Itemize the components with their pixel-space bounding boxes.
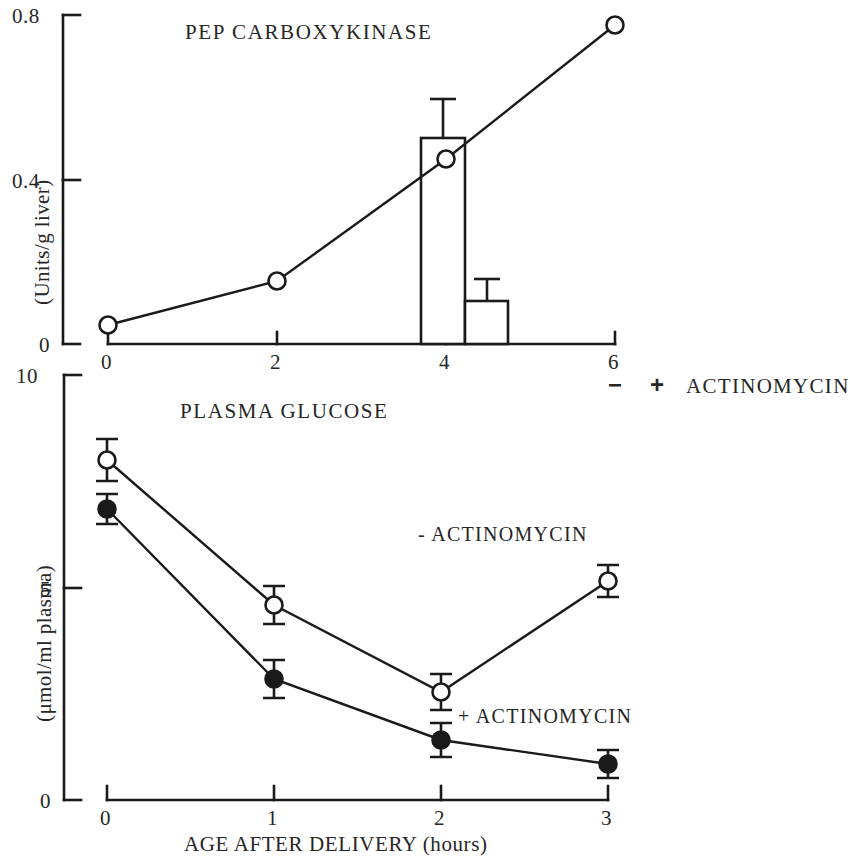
bar-minus-actinomycin	[421, 138, 465, 344]
bottom-ytick-label-0: 0	[40, 789, 51, 814]
top-xtick-label-4: 4	[439, 350, 450, 375]
top-marker-2	[269, 273, 286, 290]
bottom-filled-marker-3	[600, 756, 617, 773]
top-ytick-label-08: 0.8	[12, 4, 40, 29]
series-label-minus-actinomycin: - ACTINOMYCIN	[418, 523, 588, 546]
top-panel-series-line	[108, 25, 615, 325]
legend-minus-sign: −	[608, 371, 622, 399]
top-panel-title: PEP CARBOXYKINASE	[185, 20, 433, 45]
bottom-open-series-line	[107, 460, 608, 692]
top-panel-ylabel: (Units/g liver)	[30, 179, 55, 305]
series-label-plus-actinomycin: + ACTINOMYCIN	[458, 705, 632, 728]
top-marker-6	[607, 17, 624, 34]
bottom-panel-axes	[64, 375, 608, 800]
bar-plus-actinomycin	[465, 301, 508, 344]
bottom-open-series-markers	[99, 452, 617, 701]
bottom-panel-title: PLASMA GLUCOSE	[180, 399, 389, 424]
bottom-open-series-errorbars	[96, 439, 619, 710]
bottom-xtick-label-0: 0	[100, 806, 111, 831]
top-panel-axes	[63, 15, 615, 344]
bar-plus-error-bar	[474, 279, 500, 301]
bottom-open-marker-0	[99, 452, 116, 469]
top-ytick-label-0: 0	[39, 333, 50, 358]
legend-plus-sign: +	[650, 371, 664, 399]
top-panel-markers	[100, 17, 624, 334]
bottom-filled-marker-1	[266, 671, 283, 688]
bottom-open-marker-3	[600, 573, 617, 590]
bottom-xtick-label-1: 1	[267, 806, 278, 831]
top-marker-0	[100, 317, 117, 334]
top-panel-bars	[421, 99, 508, 344]
bottom-filled-marker-2	[433, 732, 450, 749]
bar-minus-error-bar	[430, 99, 456, 138]
bottom-ytick-label-10: 10	[16, 364, 38, 389]
bottom-filled-marker-0	[99, 501, 116, 518]
bottom-panel-ylabel: (μmol/ml plasma)	[32, 565, 57, 722]
top-xtick-label-0: 0	[101, 350, 112, 375]
bottom-xtick-label-2: 2	[434, 806, 445, 831]
top-xtick-label-2: 2	[270, 350, 281, 375]
bottom-xtick-label-3: 3	[601, 806, 612, 831]
top-marker-4	[438, 151, 455, 168]
legend-actinomycin-label: ACTINOMYCIN	[686, 374, 850, 399]
bottom-open-marker-1	[266, 597, 283, 614]
bottom-open-marker-2	[433, 684, 450, 701]
bottom-panel-xlabel: AGE AFTER DELIVERY (hours)	[184, 832, 488, 857]
